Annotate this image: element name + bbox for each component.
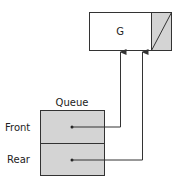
queue-record: [41, 111, 105, 176]
linked-node: G: [90, 13, 172, 51]
node-value: G: [116, 26, 124, 37]
queue-diagram: G Queue Front Rear: [0, 0, 181, 184]
rear-label: Rear: [7, 154, 31, 165]
queue-title: Queue: [56, 97, 89, 108]
front-label: Front: [5, 122, 30, 133]
